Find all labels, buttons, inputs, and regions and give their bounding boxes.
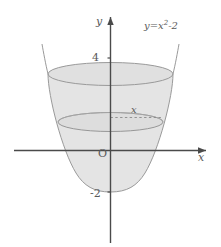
- x-axis-label: x: [198, 152, 204, 163]
- y-tick-label-negative-2: -2: [90, 188, 101, 199]
- radius-label: x: [131, 105, 137, 115]
- solid-of-revolution-figure: y x 4 -2 O x y=x2-2: [0, 0, 221, 247]
- origin-label: O: [98, 148, 107, 159]
- curve-equation-equals: =: [150, 20, 158, 31]
- figure-canvas: [0, 0, 221, 247]
- parabola-left-arm: [42, 44, 48, 74]
- curve-equation-tail: -2: [168, 20, 178, 31]
- y-tick-label-4: 4: [92, 52, 99, 63]
- parabola-right-arm: [173, 44, 179, 74]
- y-axis-label: y: [96, 16, 102, 27]
- curve-equation-label: y=x2-2: [144, 21, 178, 31]
